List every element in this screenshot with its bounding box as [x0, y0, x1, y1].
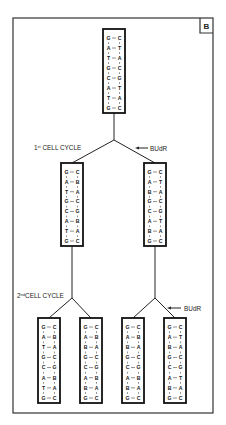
- base-left-strand: G: [125, 395, 129, 401]
- base-right-strand: G: [75, 208, 79, 214]
- base-left-strand: G: [125, 354, 129, 360]
- base-right-strand: B: [76, 179, 80, 185]
- base-right-strand: C: [53, 354, 57, 360]
- base-right-strand: A: [95, 385, 99, 391]
- base-left-strand: B: [126, 344, 130, 350]
- dna-molecule-gen2-3: GCABBAGCCGABBAGC: [122, 318, 144, 403]
- base-left-strand: G: [147, 169, 151, 175]
- base-right-strand: G: [178, 364, 182, 370]
- base-right-strand: C: [95, 395, 99, 401]
- base-left-strand: A: [42, 375, 46, 381]
- base-left-strand: G: [41, 354, 45, 360]
- panel-letter: B: [204, 22, 210, 31]
- base-right-strand: C: [76, 169, 80, 175]
- base-left-strand: C: [42, 364, 46, 370]
- budr-marker-1: BUdR: [135, 145, 167, 152]
- base-left-strand: B: [84, 344, 88, 350]
- base-left-strand: B: [126, 385, 130, 391]
- branch-cycle1-right: [114, 140, 155, 163]
- base-left-strand: A: [84, 375, 88, 381]
- base-right-strand: C: [159, 238, 163, 244]
- base-right-strand: C: [118, 105, 122, 111]
- dna-molecule-gen2-2: GCABBAGCCGABBAGC: [80, 318, 102, 403]
- base-left-strand: G: [125, 324, 129, 330]
- base-left-strand: G: [147, 238, 151, 244]
- base-left-strand: A: [168, 375, 172, 381]
- base-right-strand: B: [137, 334, 141, 340]
- base-left-strand: G: [64, 169, 68, 175]
- base-left-strand: C: [84, 364, 88, 370]
- base-left-strand: A: [107, 85, 111, 91]
- base-left-strand: G: [64, 198, 68, 204]
- cycle1-label: 1st CELL CYCLE: [34, 144, 81, 151]
- dna-molecule-gen1-right: GCATBAGCCGATBAGC: [144, 163, 166, 246]
- base-right-strand: A: [179, 385, 183, 391]
- branch-cycle2-b: [72, 298, 91, 318]
- base-left-strand: B: [168, 385, 172, 391]
- base-right-strand: C: [53, 395, 57, 401]
- base-left-strand: A: [107, 45, 111, 51]
- base-right-strand: A: [159, 189, 163, 195]
- branch-cycle2-c: [133, 298, 155, 318]
- base-right-strand: A: [159, 228, 163, 234]
- base-right-strand: G: [136, 364, 140, 370]
- base-right-strand: A: [53, 344, 57, 350]
- base-right-strand: G: [158, 208, 162, 214]
- base-right-strand: C: [159, 169, 163, 175]
- base-right-strand: G: [94, 364, 98, 370]
- base-right-strand: A: [137, 344, 141, 350]
- panel-letter-box: B: [200, 18, 213, 33]
- dna-molecules: GCATTAGCCGATTAGCGCABTAGCCGABTAGCGCATBAGC…: [38, 29, 186, 403]
- base-right-strand: B: [95, 334, 99, 340]
- base-left-strand: G: [64, 238, 68, 244]
- base-left-strand: C: [65, 208, 69, 214]
- base-left-strand: B: [168, 344, 172, 350]
- base-right-strand: C: [53, 324, 57, 330]
- base-right-strand: C: [137, 354, 141, 360]
- dna-molecule-gen2-1: GCABTAGCCGABTAGC: [38, 318, 60, 403]
- base-left-strand: A: [65, 179, 69, 185]
- base-left-strand: A: [42, 334, 46, 340]
- arrow-left-icon: [135, 147, 139, 150]
- base-right-strand: C: [137, 324, 141, 330]
- base-left-strand: G: [106, 105, 110, 111]
- dna-replication-diagram: B 1st CELL CYCLE BUdR 2ndCELL CYCLE BUdR…: [0, 0, 226, 425]
- budr-label-1: BUdR: [150, 145, 167, 152]
- base-right-strand: C: [179, 395, 183, 401]
- base-right-strand: C: [95, 354, 99, 360]
- base-left-strand: C: [126, 364, 130, 370]
- base-right-strand: A: [137, 385, 141, 391]
- cycle2-label: 2ndCELL CYCLE: [17, 292, 64, 299]
- base-right-strand: A: [118, 55, 122, 61]
- base-left-strand: A: [168, 334, 172, 340]
- base-left-strand: A: [148, 179, 152, 185]
- base-right-strand: A: [118, 95, 122, 101]
- base-right-strand: A: [179, 344, 183, 350]
- base-right-strand: B: [137, 375, 141, 381]
- base-right-strand: C: [159, 198, 163, 204]
- base-left-strand: G: [167, 395, 171, 401]
- base-right-strand: B: [76, 218, 80, 224]
- base-left-strand: G: [83, 324, 87, 330]
- dna-molecule-gen2-4: GCATBAGCCGATBAGC: [164, 318, 186, 403]
- base-right-strand: A: [76, 189, 80, 195]
- base-left-strand: G: [83, 354, 87, 360]
- base-right-strand: C: [76, 238, 80, 244]
- base-right-strand: C: [137, 395, 141, 401]
- base-left-strand: G: [167, 324, 171, 330]
- base-right-strand: C: [118, 65, 122, 71]
- dna-molecule-parent: GCATTAGCCGATTAGC: [103, 29, 125, 113]
- base-left-strand: G: [41, 324, 45, 330]
- base-left-strand: G: [106, 35, 110, 41]
- dna-molecule-gen1-left: GCABTAGCCGABTAGC: [61, 163, 83, 246]
- base-left-strand: B: [84, 385, 88, 391]
- branch-cycle2-a: [49, 298, 72, 318]
- base-right-strand: C: [179, 354, 183, 360]
- base-right-strand: G: [117, 75, 121, 81]
- base-left-strand: A: [148, 218, 152, 224]
- base-left-strand: C: [148, 208, 152, 214]
- base-right-strand: B: [95, 375, 99, 381]
- base-left-strand: A: [126, 334, 130, 340]
- base-right-strand: A: [76, 228, 80, 234]
- base-right-strand: C: [179, 324, 183, 330]
